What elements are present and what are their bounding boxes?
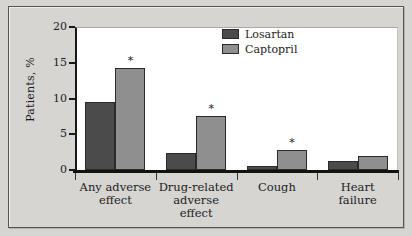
y-axis-tick-label: 15 [35,57,67,68]
bar-losartan-0 [85,102,115,170]
legend-item-captopril: Captopril [222,42,297,56]
legend-label-captopril: Captopril [245,43,297,56]
bar-losartan-2 [247,166,277,170]
y-axis-tick-label: 0 [35,164,67,175]
y-axis-tick [69,133,75,135]
x-axis-tick [317,173,318,180]
x-axis-tick [156,173,157,180]
legend-item-losartan: Losartan [222,27,297,41]
y-axis-tick-label: 20 [35,21,67,32]
y-axis-tick-label: 10 [35,93,67,104]
x-axis-tick [237,173,238,180]
y-axis-tick [69,26,75,28]
x-axis-tick [75,173,76,180]
x-category-label-line: failure [309,194,406,207]
legend-label-losartan: Losartan [245,28,294,41]
legend-swatch-icon-captopril [222,44,239,54]
y-axis-tick [69,62,75,64]
bar-losartan-3 [328,161,358,170]
legend-swatch-icon-losartan [222,29,239,39]
x-axis-tick [398,173,399,180]
y-axis-tick [69,169,75,171]
bar-captopril-3 [358,156,388,170]
bar-captopril-2 [277,150,307,170]
bar-captopril-1 [196,116,226,170]
significance-marker: * [204,103,218,114]
significance-marker: * [285,137,299,148]
y-axis-tick-label: 5 [35,128,67,139]
bar-losartan-1 [166,153,196,170]
x-category-label-line: effect [148,207,245,220]
y-axis-tick [69,98,75,100]
figure-frame: Patients, % 05101520 *** Any adverseeffe… [8,6,404,228]
bar-captopril-0 [115,68,145,170]
bar-chart-figure: Patients, % 05101520 *** Any adverseeffe… [0,0,412,236]
x-category-label: Heartfailure [309,181,406,207]
legend: Losartan Captopril [222,27,297,57]
significance-marker: * [123,55,137,66]
